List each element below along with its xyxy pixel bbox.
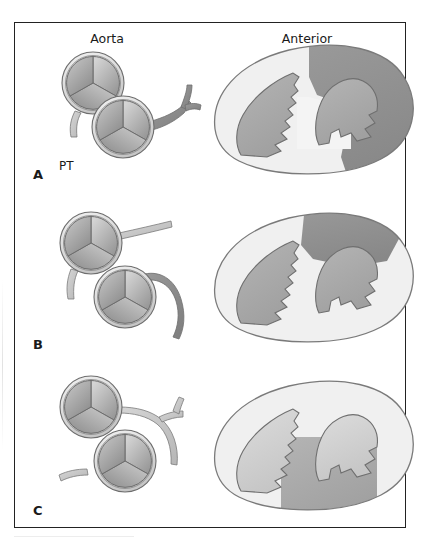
valve-diagram-c [41, 369, 201, 519]
valve-diagram-b [41, 203, 201, 353]
panel-a: Aorta Anterior PT A [15, 23, 407, 191]
aortic-valve-b [60, 212, 122, 274]
coronary-stub-pt-c [59, 469, 88, 481]
panel-c: C [15, 359, 407, 527]
scan-edge-artifact-left [2, 280, 3, 450]
pulmonary-valve-c [94, 430, 156, 492]
label-aorta: Aorta [59, 31, 155, 46]
pulmonary-valve-a [92, 96, 154, 158]
coronary-branch-lat-a [185, 104, 201, 112]
coronary-stub-aortic-a [70, 111, 81, 137]
aortic-valve-c [60, 376, 122, 438]
panel-b: B [15, 191, 407, 359]
ventricle-cross-section-a [201, 37, 421, 187]
coronary-stub-b [67, 269, 78, 299]
figure-frame: Aorta Anterior PT A [14, 22, 406, 528]
coronary-aortic-b [119, 221, 172, 239]
ventricle-cross-section-c [201, 373, 421, 523]
valve-diagram-a [41, 45, 201, 185]
ventricle-cross-section-b [201, 205, 421, 355]
pulmonary-valve-b [94, 266, 156, 328]
scan-edge-artifact-bottom [14, 536, 134, 537]
